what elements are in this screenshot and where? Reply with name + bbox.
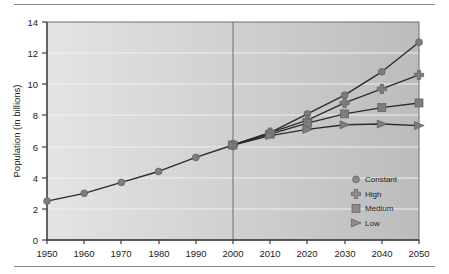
- x-tick-label: 1990: [185, 248, 206, 259]
- y-axis-title: Population (in billions): [11, 85, 22, 178]
- data-point-medium-2030: [341, 110, 349, 118]
- x-tick-label: 2020: [296, 248, 317, 259]
- y-tick-label: 10: [27, 79, 38, 90]
- x-tick-label: 2040: [371, 248, 392, 259]
- legend-label: Low: [365, 219, 380, 228]
- legend-label: Constant: [365, 175, 398, 184]
- y-tick-labels: 14 12 10 8 6 4 2 0: [27, 17, 38, 246]
- x-tick-labels: 1950 1960 1970 1980 1990 2000 2010 2020 …: [36, 248, 429, 259]
- x-tick-label: 2000: [222, 248, 243, 259]
- legend-label: Medium: [365, 204, 394, 213]
- x-tick-label: 1950: [36, 248, 57, 259]
- data-point-constant-1970: [118, 179, 125, 186]
- data-point-medium-2050: [415, 99, 423, 107]
- data-point-constant-2050: [416, 39, 423, 46]
- y-tick-label: 14: [27, 17, 38, 28]
- x-tick-label: 2010: [259, 248, 280, 259]
- data-point-medium-2040: [378, 104, 386, 112]
- y-tick-label: 0: [33, 235, 38, 246]
- data-point-constant-1960: [81, 190, 88, 197]
- legend-marker-constant: [353, 176, 360, 183]
- x-tick-label: 2050: [408, 248, 429, 259]
- data-point-constant-2030: [341, 92, 348, 99]
- y-tick-marks: [42, 22, 47, 240]
- x-tick-label: 2030: [334, 248, 355, 259]
- y-tick-label: 8: [33, 110, 38, 121]
- y-tick-label: 4: [33, 173, 38, 184]
- y-tick-label: 6: [33, 142, 38, 153]
- y-tick-label: 12: [27, 48, 38, 59]
- y-tick-label: 2: [33, 204, 38, 215]
- population-projection-figure: 14 12 10 8 6 4 2 0 1950 1960 1970 1980 1…: [0, 0, 449, 274]
- data-point-constant-1980: [155, 168, 162, 175]
- x-tick-label: 1970: [110, 248, 131, 259]
- x-tick-label: 1960: [73, 248, 94, 259]
- data-point-constant-2040: [378, 68, 385, 75]
- data-point-constant-1950: [44, 198, 51, 205]
- legend-label: High: [365, 190, 381, 199]
- chart-canvas: 14 12 10 8 6 4 2 0 1950 1960 1970 1980 1…: [0, 0, 449, 274]
- legend-item-high: High: [351, 189, 381, 198]
- legend-marker-medium: [352, 204, 360, 212]
- x-tick-label: 1980: [148, 248, 169, 259]
- legend-item-medium: Medium: [352, 204, 394, 213]
- data-point-constant-1990: [192, 154, 199, 161]
